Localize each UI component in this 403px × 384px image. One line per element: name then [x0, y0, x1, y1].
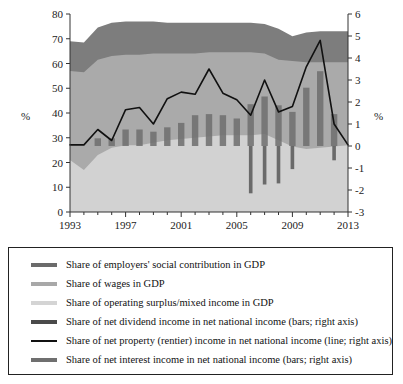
- legend-label: Share of net interest income in net nati…: [66, 350, 352, 369]
- svg-text:60: 60: [52, 58, 64, 70]
- legend-item: Share of net interest income in net nati…: [9, 350, 392, 369]
- svg-text:6: 6: [355, 8, 361, 20]
- svg-text:2001: 2001: [170, 219, 192, 231]
- y-axis-label-left: %: [21, 110, 30, 122]
- svg-text:0: 0: [355, 140, 361, 152]
- svg-text:50: 50: [52, 82, 64, 94]
- svg-text:3: 3: [355, 74, 361, 86]
- legend-swatch-employers-social-contribution: [31, 263, 57, 267]
- chart-canvas: 01020304050607080-3-2-101234561993199720…: [0, 0, 403, 240]
- legend-swatch-net-dividend: [31, 320, 57, 324]
- legend-label: Share of operating surplus/mixed income …: [66, 293, 274, 312]
- svg-text:2005: 2005: [226, 219, 249, 231]
- legend-label: Share of net dividend income in net nati…: [66, 312, 358, 331]
- svg-text:0: 0: [58, 206, 64, 218]
- chart-legend: Share of employers' social contribution …: [8, 247, 393, 375]
- chart-figure: 01020304050607080-3-2-101234561993199720…: [0, 0, 403, 240]
- legend-swatch-net-property: [31, 340, 57, 342]
- svg-text:1: 1: [355, 118, 361, 130]
- legend-item: Share of employers' social contribution …: [9, 255, 392, 274]
- svg-text:-3: -3: [355, 206, 365, 218]
- legend-item: Share of operating surplus/mixed income …: [9, 293, 392, 312]
- svg-text:-1: -1: [355, 162, 364, 174]
- legend-swatch-wages: [31, 282, 57, 286]
- legend-item: Share of wages in GDP: [9, 274, 392, 293]
- svg-text:4: 4: [355, 52, 361, 64]
- svg-text:2: 2: [355, 96, 361, 108]
- legend-label: Share of net property (rentier) income i…: [66, 331, 392, 350]
- svg-text:30: 30: [52, 132, 64, 144]
- chart-page: 01020304050607080-3-2-101234561993199720…: [0, 0, 403, 384]
- legend-label: Share of wages in GDP: [66, 274, 165, 293]
- legend-label: Share of employers' social contribution …: [66, 255, 265, 274]
- svg-text:40: 40: [52, 107, 64, 119]
- legend-item: Share of net property (rentier) income i…: [9, 331, 392, 350]
- svg-text:1997: 1997: [115, 219, 138, 231]
- y-axis-label-right: %: [374, 110, 383, 122]
- svg-text:70: 70: [52, 33, 64, 45]
- svg-text:10: 10: [52, 181, 64, 193]
- svg-text:5: 5: [355, 30, 361, 42]
- svg-text:20: 20: [52, 157, 64, 169]
- svg-text:-2: -2: [355, 184, 364, 196]
- legend-swatch-operating-surplus: [31, 301, 57, 305]
- svg-text:2013: 2013: [337, 219, 360, 231]
- legend-item: Share of net dividend income in net nati…: [9, 312, 392, 331]
- svg-text:80: 80: [52, 8, 64, 20]
- svg-text:2009: 2009: [281, 219, 304, 231]
- legend-swatch-net-interest: [31, 358, 57, 362]
- svg-text:1993: 1993: [59, 219, 82, 231]
